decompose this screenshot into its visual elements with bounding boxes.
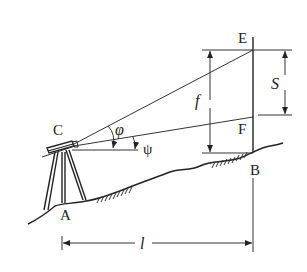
label-C: C xyxy=(53,122,63,138)
sight-line-CE xyxy=(74,50,253,144)
label-E: E xyxy=(238,30,247,46)
label-B: B xyxy=(250,162,260,178)
sight-line-CF xyxy=(74,117,253,146)
angle-phi-arc xyxy=(108,126,114,148)
label-phi: φ xyxy=(115,121,124,139)
tripod xyxy=(44,150,86,210)
stadia-diagram: E F B C A f S l φ ψ xyxy=(0,0,307,272)
label-psi: ψ xyxy=(143,141,153,157)
label-S: S xyxy=(271,75,279,92)
label-F: F xyxy=(238,121,246,137)
angle-psi-arc xyxy=(133,137,135,149)
label-l: l xyxy=(140,235,145,252)
label-f: f xyxy=(195,92,202,110)
ground-hatching xyxy=(97,152,247,203)
label-A: A xyxy=(60,207,71,223)
